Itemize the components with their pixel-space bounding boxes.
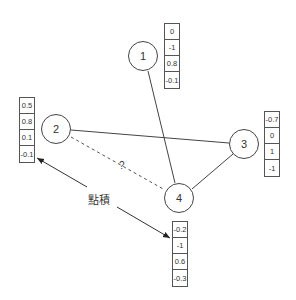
vector-4: -0.2 -1 0.6 -0.3 xyxy=(172,221,188,287)
node-2: 2 xyxy=(41,114,71,144)
node-1: 1 xyxy=(128,41,158,71)
node-4-label: 4 xyxy=(176,192,182,204)
node-1-label: 1 xyxy=(140,50,146,62)
vector-cell: 0.6 xyxy=(173,254,187,270)
arrow-to-vector-4 xyxy=(117,207,170,238)
dot-product-label: 點積 xyxy=(88,191,110,207)
vector-cell: 0 xyxy=(265,128,279,144)
vector-cell: 0 xyxy=(165,24,179,40)
vector-cell: -1 xyxy=(165,40,179,56)
edge-2-4-dashed xyxy=(71,137,165,190)
edge-3-4 xyxy=(192,154,233,189)
vector-cell: -1 xyxy=(173,238,187,254)
vector-cell: -0.1 xyxy=(20,146,34,162)
node-3: 3 xyxy=(229,129,259,159)
vector-1: 0 -1 0.8 -0.1 xyxy=(164,23,180,89)
edge-2-3 xyxy=(71,130,229,143)
vector-cell: -1 xyxy=(265,160,279,176)
node-4: 4 xyxy=(164,183,194,213)
vector-cell: 0.8 xyxy=(20,114,34,130)
vector-cell: 1 xyxy=(265,144,279,160)
vector-cell: -0.2 xyxy=(173,222,187,238)
vector-3: -0.7 0 1 -1 xyxy=(264,111,280,177)
node-2-label: 2 xyxy=(53,123,59,135)
vector-cell: 0.5 xyxy=(20,98,34,114)
vector-cell: -0.1 xyxy=(165,72,179,88)
vector-cell: 0.1 xyxy=(20,130,34,146)
node-3-label: 3 xyxy=(241,138,247,150)
arrow-to-vector-2 xyxy=(37,158,87,187)
vector-cell: 0.8 xyxy=(165,56,179,72)
vector-cell: -0.7 xyxy=(265,112,279,128)
unknown-edge-label: ? xyxy=(119,160,125,171)
vector-cell: -0.3 xyxy=(173,270,187,286)
vector-2: 0.5 0.8 0.1 -0.1 xyxy=(19,97,35,163)
